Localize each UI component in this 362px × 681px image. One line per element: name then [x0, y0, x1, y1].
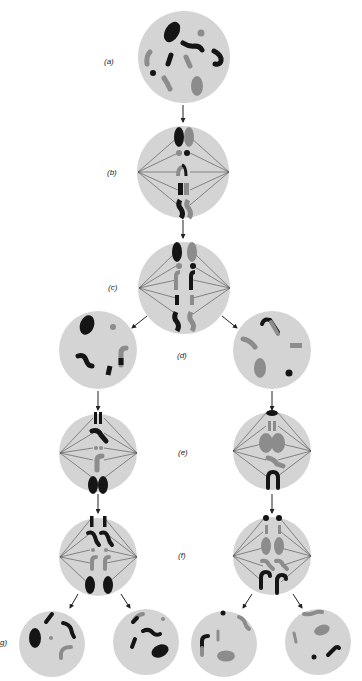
stage-label-a: (a): [104, 57, 114, 66]
chromosome: [271, 433, 285, 453]
meiosis-diagram: [0, 0, 362, 681]
chromosome: [99, 446, 103, 450]
chromosome: [90, 516, 94, 527]
chromosome: [172, 242, 182, 262]
chromosome: [274, 537, 284, 555]
chromosome: [266, 410, 278, 416]
cell-g4: [285, 609, 351, 675]
chromosome: [254, 358, 266, 378]
arrow-f-to-g2: [121, 594, 130, 608]
cell-a: [138, 11, 230, 103]
chromosome: [191, 76, 203, 96]
chromosome: [286, 370, 293, 377]
chromosome: [265, 525, 268, 534]
chromosome: [184, 127, 194, 147]
chromosome: [94, 412, 97, 424]
chromosome: [261, 537, 271, 555]
chromosome: [178, 183, 183, 195]
chromosome: [110, 324, 116, 330]
cell-d-left: [59, 311, 137, 389]
cell-membrane: [233, 517, 311, 595]
arrow-f-to-g3: [243, 594, 252, 608]
stage-label-b: (b): [107, 168, 117, 177]
chromosome: [94, 446, 98, 450]
cell-g1: [19, 611, 85, 677]
chromosome: [198, 30, 205, 37]
cell-e-left: [59, 412, 137, 494]
cell-d-right: [233, 311, 311, 389]
chromosome: [132, 639, 135, 647]
cell-g3: [191, 611, 257, 678]
chromosome: [268, 421, 271, 431]
chromosome: [190, 263, 196, 269]
chromosome: [98, 476, 108, 494]
chromosome: [217, 651, 235, 662]
arrow-f-to-g1: [70, 594, 78, 608]
chromosome: [161, 617, 165, 621]
chromosome: [88, 476, 98, 494]
cell-f-left: [59, 516, 137, 596]
cell-membrane: [138, 242, 230, 334]
cell-c: [138, 242, 230, 334]
chromosome: [276, 515, 282, 521]
chromosome: [108, 366, 110, 375]
stage-label-e: (e): [178, 448, 188, 457]
chromosome: [168, 55, 171, 64]
chromosome: [103, 576, 113, 594]
chromosome: [176, 150, 182, 156]
cell-membrane: [113, 609, 179, 675]
chromosome: [259, 433, 273, 453]
cell-f-right: [233, 515, 311, 595]
chromosome: [174, 127, 184, 147]
chromosome: [104, 548, 108, 552]
chromosome: [99, 412, 102, 424]
cell-e-right: [233, 410, 311, 490]
chromosome: [49, 636, 53, 640]
stage-label-d: (d): [177, 351, 187, 360]
chromosome: [176, 263, 182, 269]
chromosome: [187, 242, 197, 262]
chromosome: [263, 515, 269, 521]
chromosome: [175, 295, 179, 305]
chromosome: [184, 183, 189, 195]
chromosome: [150, 70, 156, 76]
stage-label-f: (f): [178, 551, 186, 560]
cell-membrane: [19, 611, 85, 677]
chromosome: [190, 295, 194, 305]
chromosome: [184, 150, 190, 156]
cell-membrane: [233, 412, 311, 490]
chromosome: [221, 611, 226, 616]
arrow-c-to-d-right: [222, 316, 237, 328]
chromosome: [312, 655, 317, 660]
stage-label-g: g): [0, 638, 7, 647]
cell-b: [137, 126, 229, 218]
chromosome: [133, 618, 137, 622]
chromosome: [85, 576, 95, 594]
chromosome: [294, 633, 296, 642]
stage-label-c: (c): [108, 283, 117, 292]
cell-g2: [113, 609, 179, 675]
arrow-c-to-d-left: [132, 316, 147, 328]
chromosome: [273, 421, 276, 431]
chromosome: [290, 343, 302, 348]
chromosome: [278, 525, 281, 534]
chromosome: [91, 548, 95, 552]
cell-membrane: [59, 414, 137, 492]
chromosome: [103, 516, 107, 527]
chromosome: [29, 628, 41, 648]
arrow-f-to-g4: [293, 594, 302, 608]
